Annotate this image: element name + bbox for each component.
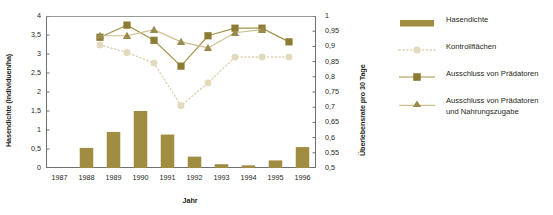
- bar: [134, 111, 148, 168]
- plot-svg: [46, 16, 316, 168]
- x-axis-tick-label: 1996: [285, 173, 321, 182]
- legend-item-kontrollflaechen: Kontrollflächen: [396, 43, 551, 57]
- legend-item-ausschluss-praedatoren-nahrung: Ausschluss von Prädatoren und Nahrungszu…: [396, 97, 551, 123]
- bar: [161, 135, 175, 168]
- legend-label: Hasendichte: [446, 15, 550, 26]
- data-point: [205, 79, 212, 86]
- legend-item-ausschluss-praedatoren: Ausschluss von Prädatoren: [396, 70, 551, 84]
- bar: [215, 164, 229, 168]
- y-axis-right-tick-label: 0,75: [325, 87, 351, 96]
- y-axis-left-tick-label: 3,5: [17, 30, 41, 39]
- y-axis-left-tick-label: 1,5: [17, 106, 41, 115]
- data-point: [286, 54, 293, 61]
- data-point: [259, 54, 266, 61]
- legend-marker-square-solid-icon: [396, 70, 438, 84]
- legend-label: Kontrollflächen: [446, 42, 550, 53]
- y-axis-left-tick-label: 2,5: [17, 68, 41, 77]
- data-point: [123, 22, 130, 29]
- bar: [80, 148, 94, 168]
- y-axis-right-tick-label: 0,9: [325, 41, 351, 50]
- y-axis-left-tick-label: 3: [17, 49, 41, 58]
- y-axis-right-tick-label: 0,95: [325, 26, 351, 35]
- data-point: [285, 38, 292, 45]
- bar: [188, 157, 202, 168]
- data-point: [124, 49, 131, 56]
- data-point: [232, 54, 239, 61]
- data-point: [204, 32, 211, 39]
- y-axis-left-tick-label: 1: [17, 125, 41, 134]
- x-axis-title: Jahr: [150, 196, 230, 205]
- y-axis-left-title: Hasendichte (Individuen/ha): [2, 40, 14, 160]
- y-axis-right-tick-label: 0,7: [325, 102, 351, 111]
- legend-marker-triangle-solid-icon: [396, 97, 438, 111]
- legend-label: Ausschluss von Prädatoren und Nahrungszu…: [446, 96, 550, 117]
- legend-item-hasendichte: Hasendichte: [396, 16, 551, 30]
- data-point: [151, 60, 158, 67]
- y-axis-right-title: Überlebensrate pro 30 Tage: [356, 55, 368, 165]
- legend-label: Ausschluss von Prädatoren: [446, 69, 550, 80]
- y-axis-right-tick-label: 0,65: [325, 117, 351, 126]
- chart-legend: Hasendichte Kontrollflächen Ausschluss v…: [396, 16, 551, 136]
- y-axis-right-tick-label: 0,5: [325, 163, 351, 172]
- data-point: [178, 102, 185, 109]
- y-axis-right-tick-label: 0,85: [325, 57, 351, 66]
- y-axis-right-tick-label: 0,8: [325, 72, 351, 81]
- plot-area: [46, 16, 316, 168]
- data-point: [97, 41, 104, 48]
- y-axis-right-tick-label: 0,55: [325, 148, 351, 157]
- y-axis-left-tick-label: 0,5: [17, 144, 41, 153]
- chart-figure: Hasendichte (Individuen/ha) Überlebensra…: [0, 0, 553, 215]
- y-axis-right-tick-label: 0,6: [325, 133, 351, 142]
- legend-marker-circle-dotted-icon: [396, 43, 438, 57]
- data-point: [177, 38, 185, 45]
- y-axis-left-tick-label: 0: [17, 163, 41, 172]
- legend-marker-bar-icon: [396, 16, 438, 30]
- data-point: [177, 63, 184, 70]
- bar: [296, 147, 310, 168]
- y-axis-left-tick-label: 2: [17, 87, 41, 96]
- y-axis-left-tick-label: 4: [17, 11, 41, 20]
- data-point: [150, 37, 157, 44]
- bar: [242, 165, 256, 168]
- bar: [107, 132, 121, 168]
- data-point: [150, 26, 158, 33]
- bar: [269, 160, 283, 168]
- y-axis-right-tick-label: 1: [325, 11, 351, 20]
